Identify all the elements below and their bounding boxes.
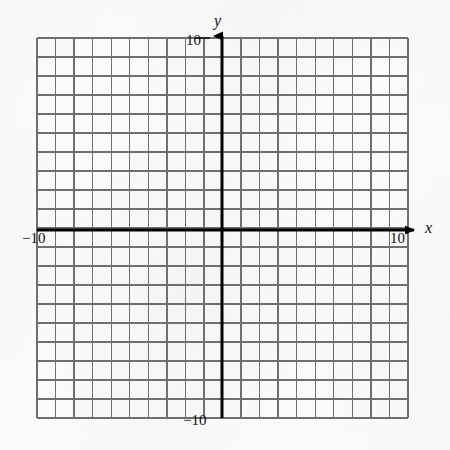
grid-svg <box>0 0 450 450</box>
graph-figure: 10 −10 −10 10 y x <box>0 0 450 450</box>
coordinate-plane: 10 −10 −10 10 y x <box>0 0 450 450</box>
x-axis-max-tick-label: 10 <box>390 231 405 246</box>
y-axis-name-label: y <box>214 13 221 29</box>
x-axis-name-label: x <box>425 220 432 236</box>
x-axis-min-tick-label: −10 <box>22 231 45 246</box>
y-axis-min-tick-label: −10 <box>183 413 206 428</box>
y-axis-max-tick-label: 10 <box>186 33 201 48</box>
